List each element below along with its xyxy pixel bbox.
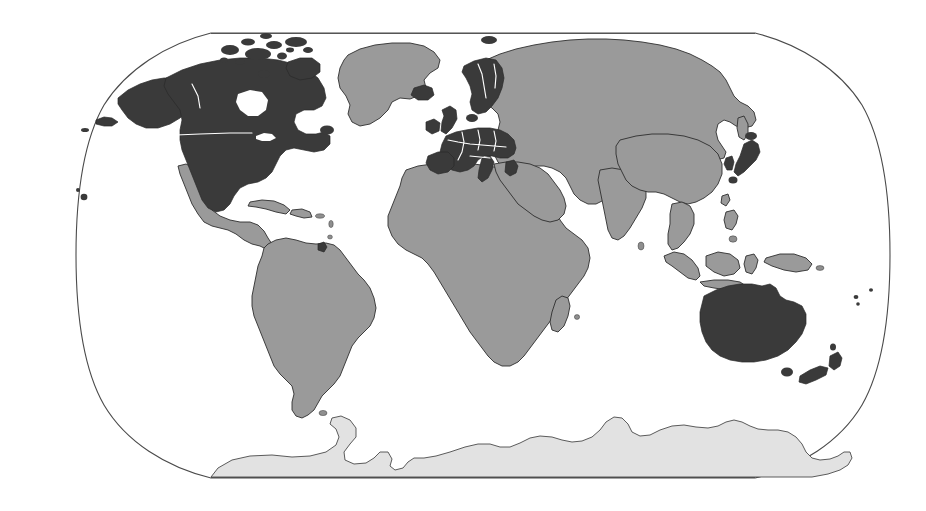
- mauritius-island: [574, 315, 579, 320]
- hokkaido-island: [745, 132, 757, 140]
- victoria-island: [245, 48, 271, 60]
- aleutian-tip-island: [81, 128, 89, 132]
- pacific-island-fiji: [854, 295, 859, 299]
- somerset-island: [277, 53, 287, 60]
- world-map-container: [0, 0, 926, 511]
- solomon-islands: [816, 266, 824, 271]
- devon-island: [266, 41, 282, 49]
- arctic-island-small-a: [303, 47, 313, 53]
- hawaii-island-main: [81, 194, 88, 200]
- arctic-island-small-c: [220, 57, 228, 62]
- trinidad-island: [328, 235, 333, 239]
- svalbard-island: [481, 36, 497, 44]
- arctic-island-small-b: [235, 59, 245, 65]
- banks-island: [221, 45, 239, 55]
- philippines-south-island: [729, 236, 737, 242]
- hawaii-island-small: [76, 188, 80, 192]
- world-map-svg: [0, 0, 926, 511]
- arctic-island-small-d: [286, 48, 294, 53]
- ellesmere-island: [285, 37, 307, 47]
- puerto-rico-island: [316, 214, 325, 218]
- newfoundland-island: [320, 126, 334, 135]
- lesser-antilles-island: [329, 220, 333, 227]
- prince-patrick-island: [241, 39, 255, 46]
- ireland-landmass: [426, 119, 440, 134]
- southampton-island: [258, 70, 270, 78]
- melville-island: [260, 33, 272, 39]
- falkland-islands: [319, 410, 327, 415]
- pacific-island-vanuatu: [856, 302, 860, 306]
- tasmania-island: [781, 368, 793, 377]
- sri-lanka-island: [638, 242, 644, 250]
- kyushu-island: [729, 177, 738, 184]
- new-zealand-north-tip: [830, 344, 836, 351]
- pacific-island-samoa: [869, 288, 873, 292]
- denmark-landmass: [466, 114, 478, 122]
